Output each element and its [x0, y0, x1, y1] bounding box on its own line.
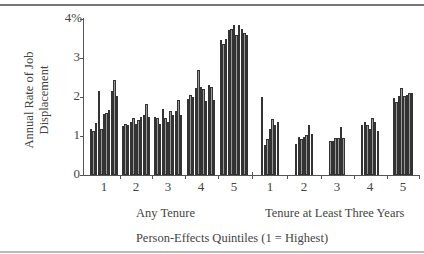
x-category-label: 3: [327, 179, 347, 195]
bar: [311, 134, 314, 175]
x-tick-mark: [321, 175, 322, 179]
y-tick-mark: [80, 136, 84, 137]
x-category-label: 5: [224, 179, 244, 195]
y-tick-mark: [80, 58, 84, 59]
bar: [411, 93, 414, 175]
top-rule: [0, 4, 424, 6]
x-tick-mark: [287, 175, 288, 179]
x-category-label: 4: [191, 179, 211, 195]
bar: [116, 96, 119, 175]
bar: [277, 122, 280, 175]
x-tick-mark: [120, 175, 121, 179]
x-tick-mark: [354, 175, 355, 179]
y-tick-0: 0: [60, 166, 80, 182]
x-category-label: 4: [360, 179, 380, 195]
bar: [342, 138, 345, 175]
panel-label-tenure-3yrs: Tenure at Least Three Years: [265, 206, 404, 221]
x-category-label: 1: [94, 179, 114, 195]
bar: [148, 117, 151, 176]
bar: [180, 115, 183, 175]
bar: [246, 35, 249, 175]
x-axis-title: Person-Effects Quintiles (1 = Highest): [0, 231, 424, 246]
bar: [213, 100, 216, 175]
x-tick-mark: [152, 175, 153, 179]
x-category-label: 1: [260, 179, 280, 195]
x-tick-mark: [419, 175, 420, 179]
x-category-label: 3: [158, 179, 178, 195]
y-tick-3: 3: [60, 49, 80, 65]
y-tick-1: 1: [60, 127, 80, 143]
y-tick-mark: [80, 97, 84, 98]
y-tick-4: 4%: [56, 10, 82, 26]
x-category-label: 2: [126, 179, 146, 195]
x-tick-mark: [387, 175, 388, 179]
y-tick-2: 2: [60, 88, 80, 104]
x-tick-mark: [185, 175, 186, 179]
panel-label-any-tenure: Any Tenure: [136, 206, 195, 221]
bar: [377, 131, 380, 175]
bottom-rule: [0, 251, 424, 253]
x-category-label: 5: [393, 179, 413, 195]
y-axis-title: Annual Rate of Job Displacement: [22, 35, 52, 165]
x-tick-mark: [252, 172, 253, 179]
x-category-label: 2: [294, 179, 314, 195]
y-tick-mark: [80, 19, 84, 20]
x-tick-mark: [218, 175, 219, 179]
